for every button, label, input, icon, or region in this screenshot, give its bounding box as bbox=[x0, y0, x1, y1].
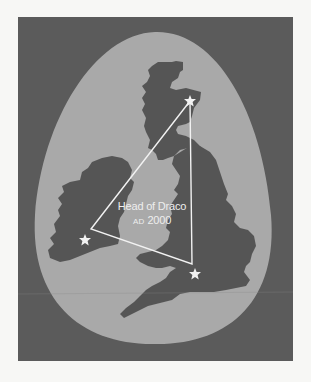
map-era: AD bbox=[133, 217, 145, 226]
map-figure bbox=[0, 0, 311, 382]
map-year: 2000 bbox=[147, 214, 171, 226]
map-date: AD 2000 bbox=[102, 214, 202, 226]
map-title: Head of Draco bbox=[102, 200, 202, 212]
